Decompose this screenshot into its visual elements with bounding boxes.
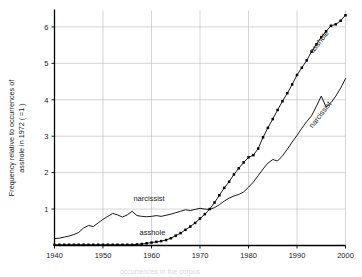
annotation-narcissist-0: narcissist	[133, 194, 165, 203]
data-point-asshole-1975	[223, 187, 226, 190]
y-tick-label-6: 6	[44, 23, 48, 32]
data-point-asshole-1964	[170, 237, 173, 240]
x-tick-label-2000: 2000	[337, 251, 354, 260]
data-point-asshole-1966	[179, 232, 182, 235]
data-point-asshole-1960	[150, 241, 153, 244]
y-tick-label-4: 4	[44, 96, 48, 105]
data-point-asshole-1953	[116, 244, 119, 247]
data-point-asshole-1973	[213, 201, 216, 204]
y-tick-label-5: 5	[44, 59, 48, 68]
y-tick-label-3: 3	[44, 132, 48, 141]
footer-ghost-text: occurrences in the corpus	[120, 268, 201, 276]
data-point-asshole-1997	[330, 25, 333, 28]
data-point-asshole-1989	[291, 83, 294, 86]
data-point-asshole-1981	[252, 154, 255, 157]
y-tick-label-2: 2	[44, 168, 48, 177]
data-point-asshole-1979	[242, 161, 245, 164]
data-point-asshole-1962	[160, 240, 163, 243]
chart-figure: 1234561940195019601970198019902000 narci…	[0, 0, 362, 277]
data-point-asshole-1985	[272, 118, 275, 121]
data-point-asshole-1990	[296, 74, 299, 77]
data-point-asshole-1963	[165, 239, 168, 242]
data-point-asshole-1942	[63, 244, 65, 247]
y-axis-title-line2: asshole in 1972 ( =1 )	[17, 103, 26, 172]
x-tick-label-1980: 1980	[240, 251, 257, 260]
y-tick-label-1: 1	[44, 205, 48, 214]
data-point-asshole-1941	[58, 244, 61, 247]
data-point-asshole-1959	[145, 242, 148, 245]
data-point-asshole-1957	[136, 243, 139, 246]
data-point-asshole-1983	[262, 136, 265, 139]
data-point-asshole-1999	[339, 19, 342, 22]
data-point-asshole-1984	[267, 127, 270, 130]
data-point-asshole-1980	[247, 156, 250, 159]
x-tick-label-1940: 1940	[46, 251, 63, 260]
annotation-asshole-1: asshole	[140, 228, 166, 237]
data-point-asshole-1944	[73, 244, 76, 247]
data-point-asshole-1969	[194, 222, 197, 225]
data-point-asshole-1946	[82, 244, 85, 247]
data-point-asshole-1974	[218, 194, 221, 197]
data-point-asshole-1955	[126, 244, 129, 247]
data-point-asshole-1976	[228, 180, 231, 183]
data-point-asshole-1958	[141, 243, 144, 246]
data-point-asshole-1951	[107, 244, 110, 247]
data-point-asshole-1982	[257, 147, 260, 150]
data-point-asshole-1998	[335, 23, 338, 26]
y-axis-title-line1: Frequency relative to occurrences of	[7, 80, 16, 196]
data-point-asshole-1991	[301, 66, 304, 69]
data-point-asshole-1949	[97, 244, 100, 247]
data-point-asshole-1947	[87, 244, 90, 247]
data-point-asshole-1968	[189, 225, 192, 228]
data-point-asshole-2000	[344, 14, 347, 17]
x-tick-label-1970: 1970	[192, 251, 209, 260]
data-point-asshole-1945	[78, 244, 81, 247]
data-point-asshole-1978	[238, 167, 241, 170]
data-point-asshole-1977	[233, 173, 236, 176]
data-point-asshole-1970	[199, 217, 202, 220]
data-point-asshole-1967	[184, 229, 187, 232]
x-tick-label-1950: 1950	[95, 251, 112, 260]
data-point-asshole-1950	[102, 244, 105, 247]
data-point-asshole-1987	[281, 100, 284, 103]
x-tick-label-1960: 1960	[143, 251, 160, 260]
data-point-asshole-1971	[204, 213, 207, 216]
data-point-asshole-1943	[68, 244, 71, 247]
data-point-asshole-1988	[286, 92, 289, 95]
frequency-line-chart: 1234561940195019601970198019902000 narci…	[0, 0, 362, 277]
data-point-asshole-1948	[92, 244, 95, 247]
data-point-asshole-1965	[175, 234, 178, 237]
x-tick-label-1990: 1990	[289, 251, 306, 260]
data-point-asshole-1992	[305, 59, 308, 62]
data-point-asshole-1986	[276, 109, 279, 112]
data-point-asshole-1952	[111, 244, 114, 247]
data-point-asshole-1956	[131, 244, 134, 247]
data-point-asshole-1954	[121, 244, 124, 247]
data-point-asshole-1961	[155, 241, 158, 244]
data-point-asshole-1940	[53, 244, 56, 247]
